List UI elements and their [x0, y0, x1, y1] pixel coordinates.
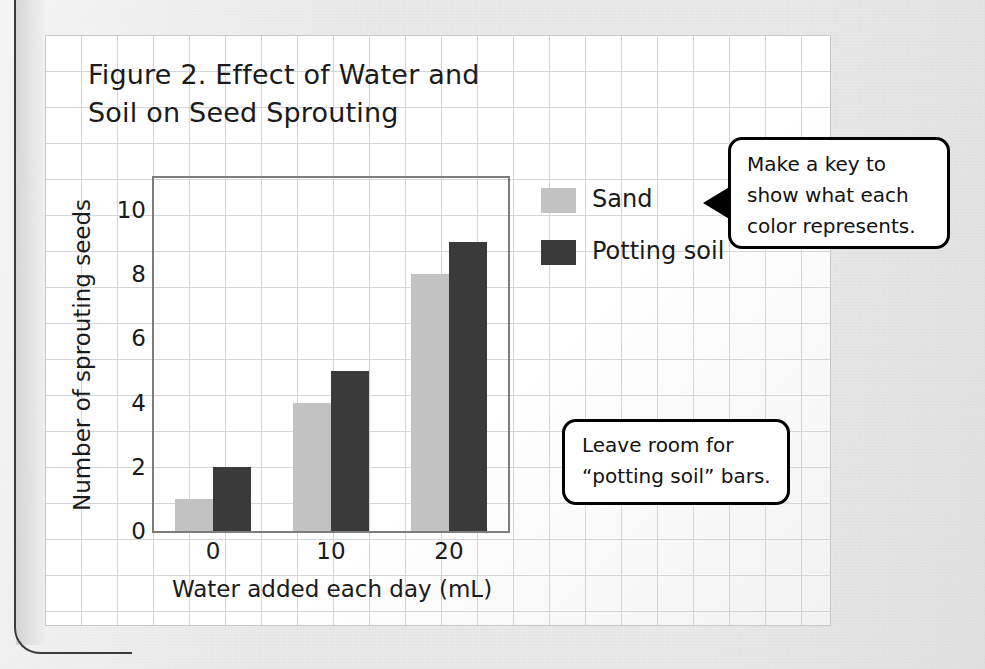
callout-make-a-key: Make a key to show what each color repre… [728, 137, 950, 249]
y-tick-label: 6 [112, 325, 146, 351]
y-axis-ticks: 0246810 [104, 176, 146, 533]
bar-sand-0 [175, 499, 213, 531]
callout-leave-room: Leave room for “potting soil” bars. [562, 419, 790, 505]
callout-leave-room-text: Leave room for “potting soil” bars. [582, 430, 787, 492]
bar-potting-soil-10 [331, 371, 369, 531]
bar-potting-soil-0 [213, 467, 251, 531]
bar-group-container [154, 178, 508, 531]
legend-label-sand: Sand [592, 185, 652, 213]
legend-swatch-potting-soil [541, 240, 576, 265]
x-axis-title: Water added each day (mL) [152, 576, 512, 602]
callout-make-a-key-text: Make a key to show what each color repre… [747, 149, 947, 242]
y-tick-label: 4 [112, 390, 146, 416]
y-axis-title-text: Number of sprouting seeds [69, 198, 95, 510]
y-tick-label: 0 [112, 518, 146, 544]
callout-key-arrow-icon [703, 186, 731, 220]
y-axis-title: Number of sprouting seeds [62, 176, 102, 533]
y-tick-label: 2 [112, 454, 146, 480]
page-background: Figure 2. Effect of Water and Soil on Se… [0, 0, 985, 669]
bar-potting-soil-20 [449, 242, 487, 531]
legend-label-potting-soil: Potting soil [592, 237, 724, 265]
bar-sand-10 [293, 403, 331, 531]
x-tick-label: 20 [414, 538, 484, 564]
x-tick-label: 10 [296, 538, 366, 564]
x-axis-ticks: 01020 [152, 538, 510, 570]
y-tick-label: 8 [112, 261, 146, 287]
x-tick-label: 0 [178, 538, 248, 564]
bar-sand-20 [411, 274, 449, 531]
legend-swatch-sand [541, 188, 576, 213]
y-tick-label: 10 [112, 197, 146, 223]
chart-title: Figure 2. Effect of Water and Soil on Se… [88, 56, 558, 132]
